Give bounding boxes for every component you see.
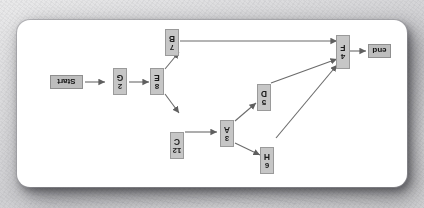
graph-node-d[interactable]: 5 D: [257, 84, 271, 111]
terminal-start-label: Start: [57, 78, 75, 87]
graph-node-b-value: 7: [170, 43, 174, 51]
graph-node-g[interactable]: 2 G: [113, 68, 127, 95]
terminal-start[interactable]: Start: [50, 75, 83, 89]
graph-node-h-letter: H: [264, 152, 270, 161]
graph-node-a-letter: A: [224, 125, 230, 134]
graph-node-f[interactable]: 4 F: [336, 35, 350, 69]
graph-node-g-letter: G: [117, 73, 124, 82]
graph-node-e-value: 8: [155, 82, 159, 90]
terminal-end-label: end: [372, 47, 386, 56]
graph-node-h[interactable]: 6 H: [260, 147, 274, 174]
edge-h-to-f: [276, 65, 337, 138]
graph-node-h-value: 6: [265, 161, 269, 169]
graph-node-c-value: 12: [173, 146, 182, 154]
graph-node-a[interactable]: 3 A: [220, 120, 234, 147]
graph-canvas: Start end 6 H 3 A 12 C 5 D 8 E 2 G: [17, 20, 407, 187]
graph-node-c-letter: C: [174, 137, 180, 146]
graph-node-e-letter: E: [154, 73, 160, 82]
terminal-end[interactable]: end: [368, 44, 391, 58]
graph-node-b-letter: B: [169, 34, 175, 43]
graph-node-a-value: 3: [225, 134, 229, 142]
graph-node-f-value: 4: [341, 52, 345, 60]
edge-d-to-f: [271, 59, 337, 83]
backdrop-smudge: [30, 194, 390, 204]
graph-node-f-letter: F: [340, 44, 345, 53]
graph-node-e[interactable]: 8 E: [150, 68, 164, 95]
edge-a-to-d: [235, 103, 256, 121]
graph-node-d-letter: D: [261, 89, 267, 98]
graph-node-c[interactable]: 12 C: [170, 132, 184, 159]
graph-node-d-value: 5: [262, 98, 266, 106]
graph-node-b[interactable]: 7 B: [165, 29, 179, 56]
edge-e-to-c: [165, 94, 179, 113]
screenshot-root: Start end 6 H 3 A 12 C 5 D 8 E 2 G: [0, 0, 424, 208]
edge-a-to-h: [235, 143, 260, 155]
graph-node-g-value: 2: [118, 82, 122, 90]
